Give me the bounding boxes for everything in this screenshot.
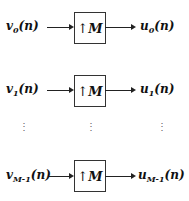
ellipsis-center: ⋮ bbox=[86, 124, 96, 129]
output-line-1 bbox=[105, 90, 131, 91]
output-label-1: u1(n) bbox=[140, 82, 174, 98]
input-label-last: vM-1(n) bbox=[6, 168, 51, 184]
output-line-last bbox=[105, 176, 131, 177]
upsampler-block-0: ↑M bbox=[74, 12, 106, 44]
input-line-1 bbox=[47, 90, 71, 91]
output-label-0: u0(n) bbox=[140, 19, 174, 35]
upsampler-block-1: ↑M bbox=[74, 75, 106, 107]
output-label-last: uM-1(n) bbox=[138, 168, 185, 184]
arrow-icon bbox=[131, 173, 136, 179]
output-line-0 bbox=[105, 27, 131, 28]
arrow-icon bbox=[131, 24, 136, 30]
input-line-last bbox=[49, 176, 71, 177]
input-line-0 bbox=[47, 27, 71, 28]
input-label-0: v0(n) bbox=[6, 19, 39, 35]
ellipsis-left: ⋮ bbox=[19, 124, 29, 129]
arrow-icon bbox=[131, 87, 136, 93]
ellipsis-right: ⋮ bbox=[157, 124, 167, 129]
upsampler-block-last: ↑M bbox=[74, 160, 106, 192]
input-label-1: v1(n) bbox=[6, 82, 39, 98]
